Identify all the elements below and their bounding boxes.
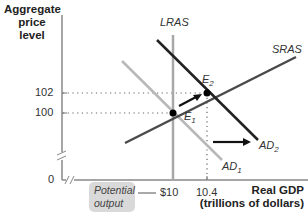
y-axis-label-line: price [4,16,60,29]
lras-label: LRAS [160,16,189,28]
sras-curve [125,57,296,143]
e2-label-sub: 2 [209,79,213,88]
ad1-label-sub: 1 [237,166,241,175]
ad2-label: AD2 [259,139,279,154]
e2-point [204,90,211,97]
x-axis-label-line: Real GDP [200,184,304,197]
sras-label: SRAS [272,43,302,55]
y-axis-break-icon [57,156,66,160]
e1-point [170,110,177,117]
ad1-label: AD1 [222,160,242,175]
x-axis-break-icon [70,176,74,184]
x-axis-label: Real GDP (trillions of dollars) [200,184,304,210]
e1-label: E1 [184,110,196,125]
e1-label-sub: 1 [191,116,195,125]
e2-label: E2 [202,73,214,88]
y-axis-label-line: Aggregate [4,3,60,16]
ad2-label-sub: 2 [274,145,278,154]
y-axis-label-line: level [4,29,60,42]
ad1-label-text: AD [222,160,237,172]
y-tick-102: 102 [35,86,53,98]
movement-arrow [179,97,196,106]
y-tick-0: 0 [48,173,54,185]
y-tick-100: 100 [35,106,53,118]
shift-arrow-head-icon [243,138,251,146]
potential-output-line: Potential [94,184,135,197]
potential-output-line: output [94,197,135,210]
x-axis-label-line: (trillions of dollars) [200,197,304,210]
potential-output-badge: Potential output [89,182,135,212]
y-axis-label: Aggregate price level [4,3,60,42]
x-tick-10: $10 [160,186,178,198]
ad2-label-text: AD [259,139,274,151]
